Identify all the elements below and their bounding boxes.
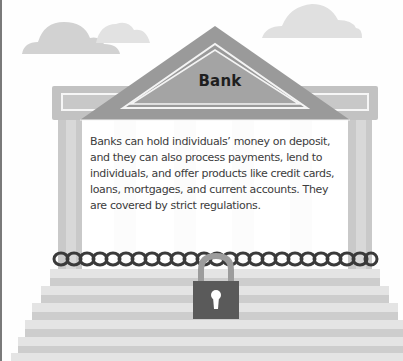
bank-illustration: Bank Banks can hold individuals’ money o… [0,0,403,361]
bank-title: Bank [160,72,280,90]
bank-description: Banks can hold individuals’ money on dep… [90,134,340,214]
cloud-icon [96,23,150,43]
cloud-icon [262,4,362,38]
